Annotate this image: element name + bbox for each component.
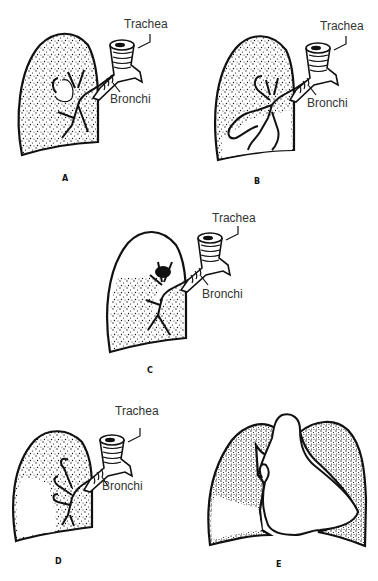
bronchi-label-a: Bronchi	[110, 93, 151, 105]
trachea-label-b: Trachea	[320, 20, 364, 32]
trachea-leader-c	[226, 226, 238, 240]
panel-letter-e: E	[276, 561, 281, 569]
panel-letter-c: C	[147, 367, 153, 375]
lung-diagram-figure	[0, 0, 378, 581]
trachea-a	[93, 40, 142, 100]
trachea-leader-b	[334, 36, 346, 50]
bronchi-label-c: Bronchi	[202, 288, 243, 300]
trachea-label-d: Trachea	[115, 405, 159, 417]
trachea-label-a: Trachea	[124, 18, 168, 30]
panel-e	[208, 414, 366, 546]
bronchi-label-d: Bronchi	[102, 480, 143, 492]
trachea-leader-d	[128, 428, 140, 442]
trachea-label-c: Trachea	[212, 212, 256, 224]
trachea-c	[181, 233, 230, 292]
obstruction-mass-c	[155, 266, 171, 278]
panel-letter-a: A	[62, 175, 68, 183]
panel-letter-d: D	[55, 558, 62, 566]
bronchi-label-b: Bronchi	[307, 97, 348, 109]
panel-letter-b: B	[254, 178, 260, 186]
trachea-leader-a	[138, 34, 150, 48]
